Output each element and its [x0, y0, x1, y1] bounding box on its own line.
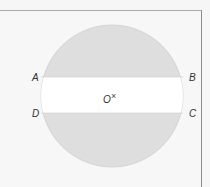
- label-o: O: [103, 94, 111, 105]
- label-d: D: [32, 108, 39, 119]
- label-b: B: [189, 72, 196, 83]
- circle-diagram: A B D C O ×: [0, 0, 210, 187]
- label-c: C: [189, 108, 197, 119]
- label-a: A: [31, 72, 39, 83]
- center-mark-icon: ×: [111, 91, 116, 101]
